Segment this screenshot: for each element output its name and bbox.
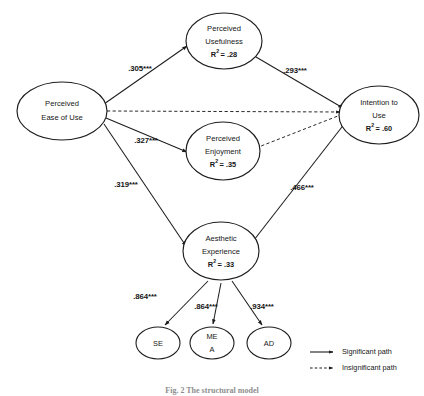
node-aesthetic-experience[interactable]: Aesthetic Experience R2= .33 [183, 222, 259, 280]
path-eou-to-pe [106, 118, 187, 152]
node-perceived-enjoyment[interactable]: Perceived Enjoyment R2= .35 [186, 122, 260, 180]
sem-path-diagram: Perceived Ease of Use Perceived Usefulne… [0, 0, 424, 396]
coef-label-ae-to-mea: .864*** [194, 302, 219, 311]
node-perceived-ease-of-use[interactable]: Perceived Ease of Use [17, 82, 107, 140]
node-label-line1: Perceived [207, 24, 241, 33]
legend-item-insignificant: Insignificant path [310, 363, 397, 372]
node-label-line2: Enjoyment [205, 147, 242, 156]
figure-caption: Fig. 2 The structural model [165, 386, 259, 395]
node-label-line1: Perceived [206, 134, 240, 143]
node-label-line2: Use [372, 111, 386, 120]
node-perceived-usefulness[interactable]: Perceived Usefulness R2= .28 [186, 13, 262, 69]
legend-item-significant: Significant path [310, 347, 392, 356]
r2-number: = .28 [221, 50, 238, 59]
node-label-line1: Aesthetic [205, 234, 236, 243]
node-intention-to-use[interactable]: Intention to Use R2= .60 [339, 86, 419, 144]
node-ellipse [17, 82, 107, 140]
r2-superscript: 2 [371, 122, 374, 128]
r2-number: = .35 [220, 160, 237, 169]
node-label-line2: Experience [202, 247, 240, 256]
r2-number: = .60 [376, 124, 393, 133]
legend: Significant path Insignificant path [310, 347, 397, 372]
path-pu-to-iu [256, 57, 343, 108]
coef-label-eou-to-ae: .319*** [114, 180, 139, 189]
coef-label-eou-to-pe: .327*** [134, 136, 159, 145]
legend-label-significant: Significant path [342, 347, 392, 356]
indicator-label-line2: A [210, 345, 215, 354]
node-label-line1: Perceived [45, 99, 79, 108]
node-indicator-ad[interactable]: AD [247, 327, 291, 359]
coef-label-eou-to-pu: .305*** [128, 64, 153, 73]
r2-number: = .33 [218, 260, 235, 269]
indicator-label-line1: AD [264, 339, 274, 348]
r2-superscript: 2 [213, 258, 216, 264]
node-r2-value: R2= .28 [211, 48, 237, 59]
coef-label-pu-to-iu: .293*** [283, 66, 308, 75]
path-ae-to-iu [254, 123, 345, 240]
node-r2-value: R2= .35 [210, 158, 236, 169]
legend-label-insignificant: Insignificant path [342, 363, 397, 372]
indicator-label-line1: ME [206, 332, 217, 341]
r2-superscript: 2 [216, 48, 219, 54]
indicator-label-line1: SE [153, 339, 163, 348]
node-label-line2: Usefulness [205, 37, 243, 46]
node-indicator-mea[interactable]: ME A [190, 327, 234, 359]
coef-label-ae-to-ad: .934*** [250, 302, 275, 311]
node-r2-value: R2= .33 [208, 258, 234, 269]
node-label-line1: Intention to [360, 98, 398, 107]
r2-superscript: 2 [215, 158, 218, 164]
coef-label-ae-to-iu: .466*** [290, 183, 315, 192]
node-indicator-se[interactable]: SE [136, 327, 180, 359]
coef-label-ae-to-se: .864*** [133, 292, 158, 301]
node-label-line2: Ease of Use [41, 113, 82, 122]
path-eou-to-pu [104, 46, 187, 104]
node-r2-value: R2= .60 [366, 122, 392, 133]
path-eou-to-iu [107, 111, 340, 112]
